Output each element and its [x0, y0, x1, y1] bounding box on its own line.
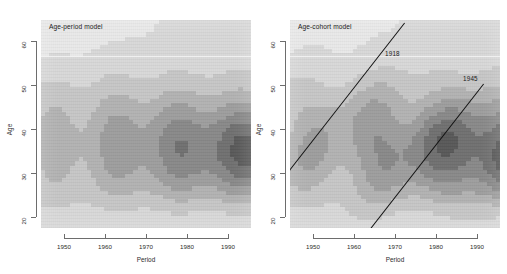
y-tick-20-right	[280, 217, 285, 218]
x-ticklabel-1950-right: 1950	[301, 243, 325, 250]
y-tick-40-right	[280, 129, 285, 130]
heatmap-cell	[496, 224, 500, 228]
y-tick-60-right	[280, 41, 285, 42]
cohort-label-1918: 1918	[385, 50, 400, 57]
x-tick-1960-right	[354, 234, 355, 239]
panel-age-cohort: 1918 1945 Age-cohort model 60 50 40 30 2…	[0, 0, 507, 274]
y-ticklabel-60-right: 60	[269, 35, 276, 49]
y-tick-50-right	[280, 85, 285, 86]
x-axis-title-right: Period	[373, 256, 417, 263]
cohort-label-1945: 1945	[463, 75, 478, 82]
lexis-heatmap-figure: Age-period model 60 50 40 30 20 Age 1950…	[0, 0, 507, 274]
y-ticklabel-50-right: 50	[269, 79, 276, 93]
x-tick-1990-right	[477, 234, 478, 239]
x-tick-1970-right	[395, 234, 396, 239]
x-tick-1950-right	[313, 234, 314, 239]
y-ticklabel-30-right: 30	[269, 167, 276, 181]
y-axis-title-right: Age	[255, 118, 262, 142]
panel-title-age-cohort: Age-cohort model	[298, 23, 352, 30]
y-tick-30-right	[280, 173, 285, 174]
y-ticklabel-40-right: 40	[269, 123, 276, 137]
x-ticklabel-1970-right: 1970	[383, 243, 407, 250]
x-ticklabel-1980-right: 1980	[424, 243, 448, 250]
x-ticklabel-1990-right: 1990	[465, 243, 489, 250]
x-ticklabel-1960-right: 1960	[342, 243, 366, 250]
y-axis-line-right	[285, 41, 286, 217]
y-ticklabel-20-right: 20	[269, 211, 276, 225]
x-tick-1980-right	[436, 234, 437, 239]
